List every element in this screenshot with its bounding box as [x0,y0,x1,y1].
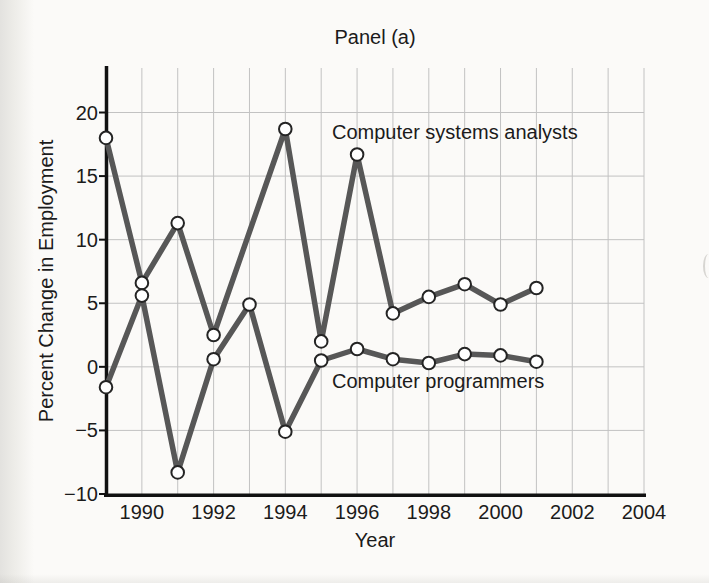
y-tick-label: 5 [0,292,98,314]
data-point-marker [171,466,184,479]
y-tick-label: 0 [0,356,98,378]
data-point-marker [351,148,364,161]
x-tick-label: 2002 [532,501,612,523]
data-point-marker [458,348,471,361]
data-point-marker [315,354,328,367]
data-point-marker [423,291,436,304]
x-tick-label: 2004 [604,501,684,523]
data-point-marker [387,307,400,320]
data-point-marker [171,217,184,230]
x-tick-label: 2000 [461,501,541,523]
y-tick-label: −5 [0,419,98,441]
data-point-marker [136,289,149,302]
data-point-marker [207,329,220,342]
plot-area [0,0,709,583]
y-tick-label: 10 [0,229,98,251]
x-tick-label: 1996 [317,501,397,523]
x-tick-label: 1990 [102,501,182,523]
y-tick-label: −10 [0,483,98,505]
data-point-marker [100,381,113,394]
data-point-marker [530,282,543,295]
data-point-marker [351,343,364,356]
figure-panel-a: Panel (a) Percent Change in Employment Y… [0,0,709,583]
data-point-marker [494,349,507,362]
series-label-programmers: Computer programmers [332,370,544,393]
chart-title: Panel (a) [106,25,644,49]
y-tick-label: 20 [0,102,98,124]
data-point-marker [315,335,328,348]
data-point-marker [423,357,436,370]
x-tick-label: 1998 [389,501,469,523]
data-point-marker [100,132,113,145]
data-point-marker [279,123,292,136]
data-point-marker [243,298,256,311]
data-point-marker [136,277,149,290]
x-tick-label: 1994 [245,501,325,523]
series-label-systems-analysts: Computer systems analysts [332,121,578,144]
data-point-marker [458,278,471,291]
data-point-marker [387,353,400,366]
x-tick-label: 1992 [174,501,254,523]
data-point-marker [279,425,292,438]
y-tick-label: 15 [0,165,98,187]
x-axis-title: Year [106,528,644,552]
data-point-marker [207,353,220,366]
page-edge-artifact [703,254,709,278]
data-point-marker [494,298,507,311]
data-point-marker [530,355,543,368]
